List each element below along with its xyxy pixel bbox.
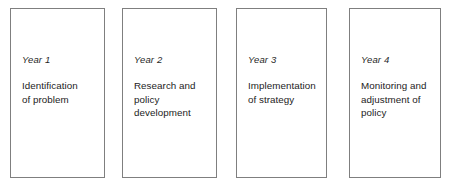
phase-box-year-4[interactable]: Year 4 Monitoring and adjustment of poli…	[349, 8, 441, 178]
phase-description-2: Research and policy development	[134, 79, 210, 120]
year-label-1: Year 1	[22, 53, 98, 66]
phase-box-year-3[interactable]: Year 3 Implementation of strategy	[236, 8, 327, 178]
phase-description-1: Identification of problem	[22, 79, 98, 106]
year-label-2: Year 2	[134, 53, 210, 66]
phase-box-content-year-2: Year 2 Research and policy development	[134, 53, 210, 120]
phase-box-content-year-3: Year 3 Implementation of strategy	[248, 53, 320, 106]
phase-box-year-1[interactable]: Year 1 Identification of problem	[10, 8, 105, 178]
year-label-4: Year 4	[361, 53, 434, 66]
phase-box-content-year-1: Year 1 Identification of problem	[22, 53, 98, 106]
phase-description-3: Implementation of strategy	[248, 79, 320, 106]
year-label-3: Year 3	[248, 53, 320, 66]
phase-description-4: Monitoring and adjustment of policy	[361, 79, 434, 120]
diagram-canvas: Year 1 Identification of problem Year 2 …	[0, 0, 452, 188]
phase-box-container: Year 1 Identification of problem Year 2 …	[0, 0, 452, 188]
phase-box-year-2[interactable]: Year 2 Research and policy development	[122, 8, 217, 178]
phase-box-content-year-4: Year 4 Monitoring and adjustment of poli…	[361, 53, 434, 120]
